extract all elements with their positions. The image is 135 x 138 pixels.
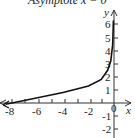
y-tick-label: 4 (105, 45, 111, 57)
x-tick-label: 0 (111, 102, 117, 114)
x-tick-label: -2 (84, 105, 93, 117)
x-tick-label: -6 (32, 105, 42, 117)
chart-plot: -8 -6 -4 -2 0 x 6 5 4 3 2 1 -1 -2 y (0, 0, 135, 138)
x-tick-label: -4 (58, 105, 68, 117)
function-curve (6, 21, 114, 105)
y-tick-label: 5 (105, 32, 111, 44)
y-tick-label: -2 (102, 123, 111, 135)
y-axis-label: y (103, 6, 109, 18)
y-tick-label: 1 (105, 84, 111, 96)
y-tick-label: -1 (102, 110, 111, 122)
x-axis-label: x (125, 104, 131, 116)
y-tick-label: 6 (105, 18, 111, 30)
